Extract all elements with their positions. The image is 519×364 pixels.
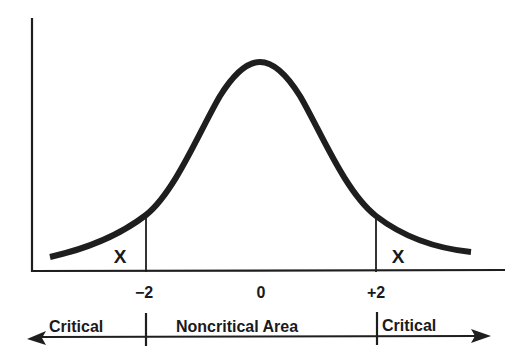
region-label-critical-left: Critical bbox=[49, 318, 103, 335]
tick-label-minus-2: −2 bbox=[135, 284, 153, 301]
tail-marker-right: X bbox=[392, 246, 405, 267]
region-label-noncritical: Noncritical Area bbox=[176, 318, 298, 335]
x-axis bbox=[31, 270, 505, 271]
bell-curve bbox=[50, 62, 471, 257]
region-arrow-line bbox=[42, 336, 478, 337]
normal-distribution-diagram: X X −2 0 +2 Critical Noncritical Area Cr… bbox=[0, 0, 519, 364]
tick-label-plus-2: +2 bbox=[367, 284, 385, 301]
tick-label-0: 0 bbox=[257, 284, 266, 301]
tail-marker-left: X bbox=[114, 246, 127, 267]
region-label-critical-right: Critical bbox=[382, 317, 436, 334]
